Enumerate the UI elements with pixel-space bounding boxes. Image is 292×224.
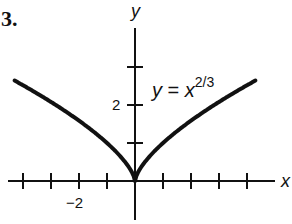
x-axis-label: x [281,171,290,192]
axes [8,28,275,220]
equation-exponent: 2/3 [195,74,214,90]
x-tick-label-neg2: −2 [66,194,83,211]
function-equation-label: y = x2/3 [152,76,214,102]
y-tick-label-2: 2 [112,96,120,113]
y-axis-label: y [131,1,140,22]
equation-base: x [185,79,195,101]
equation-lhs: y [152,79,162,101]
problem-number: 3. [1,6,18,32]
equation-equals: = [162,79,185,101]
graph-canvas [0,0,292,224]
